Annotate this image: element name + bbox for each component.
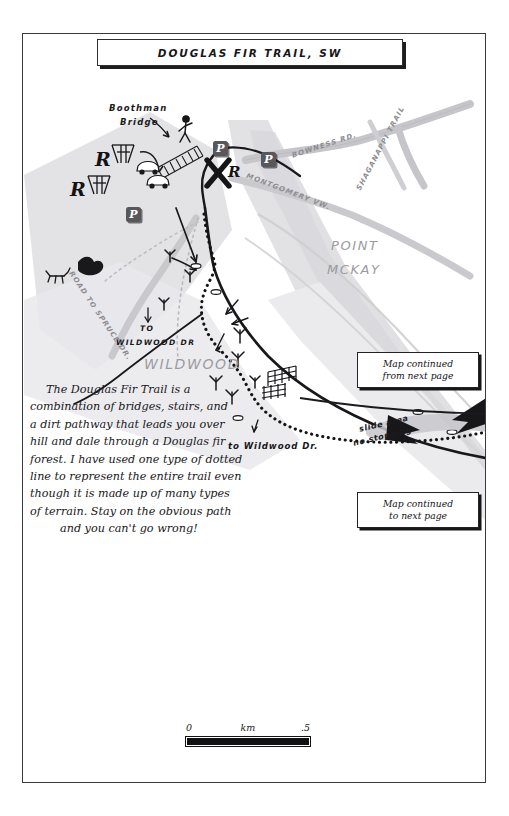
scale-labels: 0 km .5: [186, 722, 310, 735]
description-line: and you can't go wrong!: [30, 520, 248, 537]
restroom-marker: R: [70, 178, 86, 200]
scale-start: 0: [186, 722, 192, 733]
description-line: hill and dale through a Douglas fir: [30, 433, 248, 450]
page-title: DOUGLAS FIR TRAIL, SW: [158, 47, 342, 59]
parking-letter: P: [264, 153, 272, 166]
description-line: forest. I have used one type of dotted: [30, 451, 248, 468]
scale-unit: km: [241, 722, 256, 733]
parking-icon[interactable]: P: [213, 141, 228, 156]
restroom-marker: R: [95, 148, 111, 170]
parking-icon[interactable]: P: [126, 207, 141, 222]
map-continued-to-box: Map continued to next page: [357, 492, 479, 528]
scale-bar: 0 km .5: [186, 722, 310, 746]
trail-description: The Douglas Fir Trail is a combination o…: [30, 381, 248, 538]
trail-marker-oval: [447, 430, 457, 435]
road-bowness-rd: [246, 104, 470, 160]
trail-marker-oval: [191, 264, 201, 269]
stairs-symbol-lower: [262, 383, 286, 400]
map-page: DOUGLAS FIR TRAIL, SW Boothman Bridge BO…: [0, 0, 509, 816]
continued-to-line1: Map continued: [383, 498, 453, 510]
description-line: a dirt pathway that leads you over: [30, 416, 248, 433]
scale-end: .5: [301, 722, 310, 733]
description-line: though it is made up of many types: [30, 485, 248, 502]
parking-icon[interactable]: P: [261, 152, 276, 167]
description-line: The Douglas Fir Trail is a: [30, 381, 248, 398]
road-shaganappi-trail: [398, 128, 424, 186]
parking-letter: P: [129, 208, 137, 221]
tree-icon: [234, 328, 246, 343]
restroom-marker: R: [228, 163, 240, 181]
description-line: combination of bridges, stairs, and: [30, 398, 248, 415]
description-line: line to represent the entire trail even: [30, 468, 248, 485]
description-line: of terrain. Stay on the obvious path: [30, 503, 248, 520]
parking-letter: P: [216, 142, 224, 155]
continued-from-line2: from next page: [383, 370, 454, 382]
continued-from-line1: Map continued: [383, 358, 453, 370]
map-continued-from-box: Map continued from next page: [357, 352, 479, 388]
map-title-plate: DOUGLAS FIR TRAIL, SW: [97, 39, 403, 66]
continued-to-line2: to next page: [389, 510, 447, 522]
trail-marker-oval: [211, 290, 221, 295]
scale-bar-graphic: [186, 737, 310, 746]
